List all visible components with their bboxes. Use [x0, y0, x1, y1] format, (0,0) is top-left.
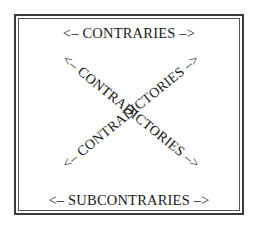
subcontraries-label: <– SUBCONTRARIES –> — [48, 193, 209, 208]
contraries-label: <– CONTRARIES –> — [63, 26, 195, 41]
